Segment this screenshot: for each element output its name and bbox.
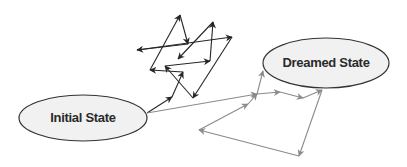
guided-branch-arrow <box>257 71 263 94</box>
guided-main-arrow <box>280 92 303 98</box>
chaotic-arrow <box>180 15 188 44</box>
dreamed-state-node: Dreamed State <box>263 38 389 88</box>
initial-state-label: Initial State <box>50 110 116 125</box>
chaotic-arrow <box>193 37 232 98</box>
chaotic-arrow <box>165 61 210 66</box>
guided-loop-arrow <box>199 130 299 156</box>
guided-loop-arrow <box>199 104 248 130</box>
chaotic-arrow <box>150 15 180 70</box>
chaotic-arrow <box>150 70 183 72</box>
chaotic-path <box>137 15 232 113</box>
dreamed-state-label: Dreamed State <box>282 55 369 70</box>
chaotic-arrow <box>137 37 232 50</box>
chaotic-arrow <box>165 66 193 98</box>
guided-main-arrow <box>147 94 257 113</box>
state-diagram: Initial State Dreamed State <box>0 0 407 167</box>
guided-main-arrow <box>257 92 280 94</box>
guided-loop-arrow <box>299 90 322 156</box>
chaotic-arrow <box>210 22 213 61</box>
initial-state-node: Initial State <box>19 95 147 141</box>
